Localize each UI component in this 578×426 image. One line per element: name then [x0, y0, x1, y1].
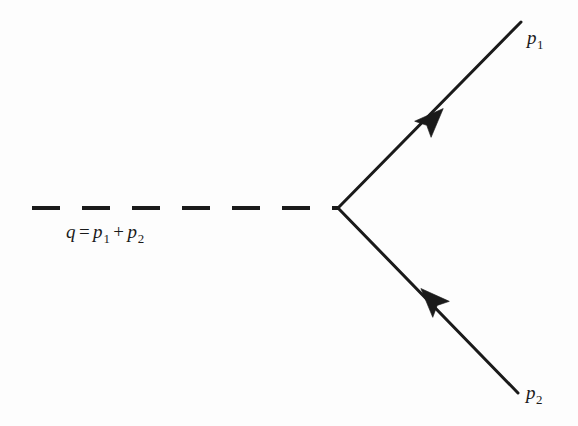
- p1-label: p1: [527, 28, 543, 47]
- feynman-diagram-canvas: q=p1+p2 p1 p2: [0, 0, 578, 426]
- p-symbol-second: p: [127, 221, 137, 242]
- p-subscript-second: 2: [138, 231, 145, 246]
- momentum-sum-equation: q=p1+p2: [66, 222, 145, 241]
- plus-sign: +: [113, 221, 124, 242]
- q-symbol: q: [66, 221, 76, 242]
- feynman-diagram-svg: [0, 0, 578, 426]
- p-symbol-first: p: [93, 221, 103, 242]
- upper-arrowhead-icon: [415, 101, 452, 138]
- equals-sign: =: [79, 221, 90, 242]
- lower-arrowhead-icon: [413, 281, 450, 318]
- p1-subscript: 1: [537, 37, 543, 52]
- p2-label: p2: [526, 383, 542, 402]
- p1-symbol: p: [527, 27, 537, 48]
- p-subscript-first: 1: [103, 231, 110, 246]
- p2-subscript: 2: [536, 392, 542, 407]
- p2-symbol: p: [526, 382, 536, 403]
